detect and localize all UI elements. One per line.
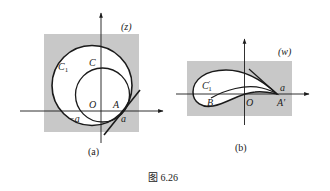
- figure-6-26: (z) C1 C O A −a a (a) (w) C′1 B O A′ a (…: [0, 0, 330, 191]
- label-origin-b: O: [246, 97, 253, 108]
- panel-b-w-plane: (w) C′1 B O A′ a (b): [176, 39, 309, 154]
- label-pos-a: a: [121, 113, 126, 124]
- label-point-a: A: [112, 99, 120, 110]
- label-point-b: B: [207, 97, 213, 108]
- figure-caption: 图 6.26: [148, 172, 178, 183]
- plane-label-w: (w): [278, 46, 292, 58]
- label-pos-a-b: a: [280, 82, 285, 93]
- label-neg-a: −a: [68, 113, 80, 124]
- label-c: C: [89, 57, 96, 68]
- label-origin-a: O: [89, 99, 96, 110]
- sublabel-b: (b): [235, 142, 247, 154]
- panel-a-z-plane: (z) C1 C O A −a a (a): [20, 13, 163, 158]
- plane-label-z: (z): [121, 21, 132, 33]
- sublabel-a: (a): [88, 146, 99, 158]
- label-point-a-prime: A′: [276, 97, 286, 108]
